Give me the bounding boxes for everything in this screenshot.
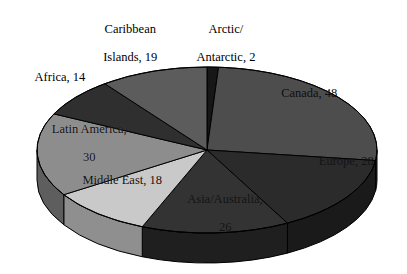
slice-label-europe: Europe, 28: [288, 140, 392, 182]
slice-label-caribbean-islands: Caribbean Islands, 19: [78, 8, 170, 78]
slice-label-arctic-antarctic: Arctic/ Antarctic, 2: [168, 8, 272, 78]
slice-label-canada: Canada, 48: [248, 72, 358, 114]
pie-chart-figure: Canada, 48 Europe, 28 Asia/Australia, 26…: [0, 0, 407, 274]
slice-label-asia-australia: Asia/Australia, 26: [160, 178, 278, 248]
slice-label-latin-america: Latin America, 30: [28, 108, 138, 178]
